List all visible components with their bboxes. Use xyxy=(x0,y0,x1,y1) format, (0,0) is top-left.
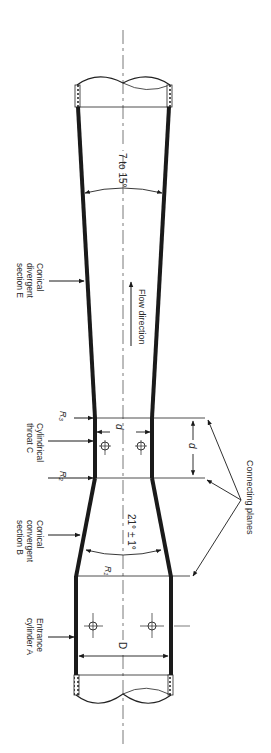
venturi-tube-diagram: 7 to 15° Flow direction Conical divergen… xyxy=(0,0,271,753)
throat-pressure-tap-right xyxy=(135,440,147,455)
convergent-section-b xyxy=(76,478,171,577)
label-divergent-section: Conical divergent section E xyxy=(15,263,45,299)
entrance-pressure-tap-left xyxy=(84,613,103,638)
svg-text:divergent: divergent xyxy=(25,263,35,299)
throat-diameter-label: d xyxy=(114,424,125,430)
inlet-diameter-label: D xyxy=(117,642,128,649)
throat-pressure-tap-left xyxy=(99,440,111,455)
r3-label: R₃ xyxy=(58,411,68,421)
label-entrance-cylinder: Entrance cylinder A xyxy=(25,618,45,655)
convergent-angle-dimension xyxy=(86,550,161,555)
r1-label: R₁ xyxy=(103,566,113,575)
flow-direction-label: Flow direction xyxy=(137,289,147,345)
svg-text:cylinder A: cylinder A xyxy=(25,618,35,655)
inlet-end-cap xyxy=(74,675,173,703)
connecting-planes-label: Connecting planes xyxy=(245,460,255,535)
connecting-planes-leaders xyxy=(193,420,241,576)
svg-text:Entrance: Entrance xyxy=(35,618,45,652)
divergent-angle-label: 7 to 15° xyxy=(117,153,128,188)
svg-text:Conical: Conical xyxy=(35,520,45,548)
throat-length-label: d xyxy=(187,443,198,449)
svg-text:convergent: convergent xyxy=(25,520,35,563)
label-cylindrical-throat: Cylindrical throat C xyxy=(25,423,45,462)
svg-text:section E: section E xyxy=(15,263,25,298)
r2-label: R₂ xyxy=(58,471,68,481)
svg-text:throat C: throat C xyxy=(25,423,35,453)
svg-text:Conical: Conical xyxy=(35,263,45,291)
svg-text:section B: section B xyxy=(15,520,25,555)
outlet-end-cap xyxy=(75,77,172,107)
convergent-angle-label: 21° ± 1° xyxy=(126,514,137,550)
svg-text:Cylindrical: Cylindrical xyxy=(35,423,45,462)
entrance-pressure-tap-right xyxy=(140,613,190,638)
label-convergent-section: Conical convergent section B xyxy=(15,520,45,563)
entrance-cylinder-a xyxy=(76,576,171,675)
